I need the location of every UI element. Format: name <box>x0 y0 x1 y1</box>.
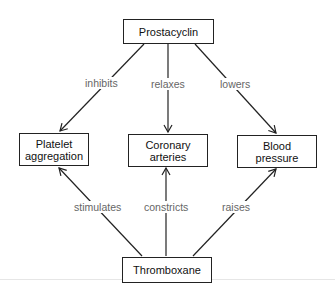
node-platelet-line1: Platelet <box>36 138 73 150</box>
node-blood-line2: pressure <box>256 152 299 164</box>
node-blood-pressure: Blood pressure <box>237 135 317 168</box>
edge-label-lowers: lowers <box>219 78 251 90</box>
node-coronary-line2: arteries <box>150 151 187 163</box>
edge-label-relaxes: relaxes <box>150 78 186 90</box>
node-coronary-line1: Coronary <box>145 139 190 151</box>
node-prostacyclin: Prostacyclin <box>123 19 214 44</box>
node-coronary-arteries: Coronary arteries <box>128 134 208 167</box>
edge-label-constricts: constricts <box>143 201 189 213</box>
node-platelet-line2: aggregation <box>25 150 83 162</box>
node-thromboxane: Thromboxane <box>122 257 212 283</box>
edge-label-raises: raises <box>221 201 251 213</box>
node-thromboxane-label: Thromboxane <box>133 264 201 276</box>
edge-label-inhibits: inhibits <box>84 77 119 89</box>
node-prostacyclin-label: Prostacyclin <box>139 26 198 38</box>
node-platelet-aggregation: Platelet aggregation <box>19 133 89 166</box>
edge-label-stimulates: stimulates <box>73 201 122 213</box>
node-blood-line1: Blood <box>263 140 291 152</box>
